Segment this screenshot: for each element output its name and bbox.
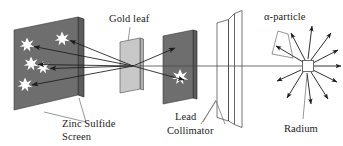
lead-collimator-outer-plate: [235, 11, 243, 128]
zinc-sulfide-screen-face: [14, 17, 78, 110]
rutherford-experiment-diagram: Gold leaf α-particle Zinc Sulfide Screen…: [0, 0, 343, 146]
emission-arrow-10: [287, 72, 303, 98]
lead-collimator: [217, 11, 242, 128]
label-lead-line1: Lead: [175, 111, 197, 122]
emission-arrow-4: [311, 33, 331, 60]
label-alpha-particle: α-particle: [264, 11, 306, 22]
emission-arrow-9: [307, 73, 311, 104]
emission-arrow-3: [308, 26, 312, 59]
leader-line-radium: [303, 75, 307, 119]
detector-screen-edge: [193, 30, 197, 99]
label-radium: Radium: [284, 123, 318, 134]
radium-source-group: [276, 26, 341, 104]
zinc-sulfide-screen-edge: [78, 17, 84, 97]
label-zinc-sulfide-line1: Zinc Sulfide: [62, 118, 116, 129]
label-lead-line2: Collimator: [167, 125, 214, 136]
detector-screen: [163, 30, 197, 104]
label-gold-leaf: Gold leaf: [109, 13, 150, 24]
detector-screen-face: [163, 30, 193, 104]
diagram-canvas: Gold leaf α-particle Zinc Sulfide Screen…: [0, 0, 343, 146]
lead-collimator-mid-plate: [229, 14, 235, 125]
leader-line-gold-leaf: [128, 27, 130, 42]
zinc-sulfide-screen: [14, 17, 84, 110]
gold-leaf-edge: [140, 38, 144, 90]
radium-source-block: [303, 61, 314, 72]
lead-collimator-inner-plate: [217, 20, 229, 122]
label-zinc-sulfide-line2: Screen: [62, 131, 92, 142]
emission-arrow-11: [277, 70, 301, 81]
